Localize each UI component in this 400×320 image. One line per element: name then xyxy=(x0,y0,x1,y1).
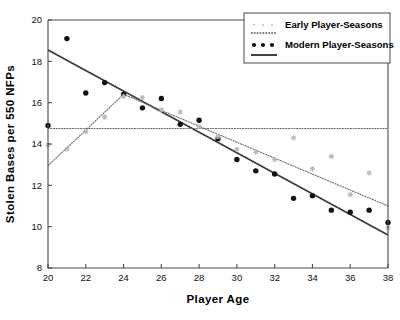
x-tick-label: 24 xyxy=(118,272,129,283)
modern-data-point xyxy=(196,118,201,123)
early-data-point xyxy=(197,124,202,129)
early-data-point xyxy=(83,129,88,134)
early-data-point xyxy=(253,150,258,155)
early-data-point xyxy=(178,109,183,114)
legend-entry-label: Modern Player-Seasons xyxy=(285,39,394,50)
x-tick-label: 20 xyxy=(43,272,54,283)
modern-data-point xyxy=(234,157,239,162)
legend-early-dot xyxy=(253,24,255,26)
y-tick-label: 16 xyxy=(31,97,42,108)
x-tick-label: 36 xyxy=(345,272,356,283)
modern-data-point xyxy=(102,80,107,85)
modern-data-point xyxy=(159,96,164,101)
x-tick-label: 22 xyxy=(80,272,91,283)
x-tick-label: 28 xyxy=(194,272,205,283)
fit-lines-layer xyxy=(48,50,388,235)
fit-line xyxy=(48,50,388,235)
modern-data-point xyxy=(83,90,88,95)
x-tick-label: 30 xyxy=(232,272,243,283)
data-points-layer xyxy=(45,36,390,230)
y-tick-label: 14 xyxy=(31,138,42,149)
y-tick-label: 20 xyxy=(31,14,42,25)
x-tick-label: 34 xyxy=(307,272,318,283)
modern-data-point xyxy=(64,36,69,41)
modern-data-point xyxy=(366,207,371,212)
early-data-point xyxy=(348,192,353,197)
modern-data-point xyxy=(310,193,315,198)
modern-data-point xyxy=(348,210,353,215)
y-tick-label: 12 xyxy=(31,180,42,191)
legend-entry-label: Early Player-Seasons xyxy=(285,19,383,30)
modern-data-point xyxy=(272,171,277,176)
legend-early-dot xyxy=(271,24,273,26)
early-data-point xyxy=(140,95,145,100)
modern-data-point xyxy=(140,105,145,110)
legend-modern-dot xyxy=(270,43,274,47)
early-data-point xyxy=(272,157,277,162)
x-tick-label: 26 xyxy=(156,272,167,283)
early-data-point xyxy=(310,166,315,171)
early-data-point xyxy=(64,147,69,152)
x-tick-label: 32 xyxy=(269,272,280,283)
chart-legend: Early Player-SeasonsModern Player-Season… xyxy=(244,13,394,63)
early-data-point xyxy=(102,115,107,120)
y-tick-label: 8 xyxy=(37,262,42,273)
modern-data-point xyxy=(253,168,258,173)
stolen-bases-scatter-chart: 810121416182020222426283032343638 Early … xyxy=(0,0,400,320)
early-data-point xyxy=(329,154,334,159)
x-tick-label: 38 xyxy=(383,272,394,283)
legend-modern-dot xyxy=(252,43,256,47)
early-data-point xyxy=(215,134,220,139)
early-data-point xyxy=(234,147,239,152)
early-data-point xyxy=(291,135,296,140)
early-data-point xyxy=(121,94,126,99)
early-data-point xyxy=(367,170,372,175)
legend-early-dot xyxy=(262,24,264,26)
y-tick-label: 18 xyxy=(31,56,42,67)
early-data-point xyxy=(159,107,164,112)
y-tick-label: 10 xyxy=(31,221,42,232)
y-axis-title: Stolen Bases per 550 NFPs xyxy=(4,65,16,223)
legend-modern-dot xyxy=(261,43,265,47)
modern-data-point xyxy=(329,207,334,212)
chart-container: 810121416182020222426283032343638 Early … xyxy=(0,0,400,320)
modern-data-point xyxy=(178,122,183,127)
modern-data-point xyxy=(291,196,296,201)
x-axis-title: Player Age xyxy=(186,293,249,305)
